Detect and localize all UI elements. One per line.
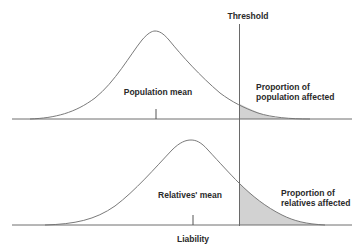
threshold-label: Threshold bbox=[227, 11, 268, 21]
relatives-affected-label-line2: relatives affected bbox=[281, 198, 350, 208]
relatives-affected-label-line1: Proportion of bbox=[281, 188, 335, 198]
population-curve bbox=[30, 31, 310, 119]
relatives-mean-label: Relatives' mean bbox=[158, 190, 222, 200]
relatives-panel: Relatives' mean Proportion of relatives … bbox=[12, 140, 352, 225]
population-affected-label-line2: population affected bbox=[256, 92, 334, 102]
population-affected-shade bbox=[239, 104, 288, 120]
population-panel: Population mean Proportion of population… bbox=[12, 31, 352, 119]
population-mean-label: Population mean bbox=[124, 87, 192, 97]
liability-threshold-diagram: Population mean Proportion of population… bbox=[0, 0, 363, 250]
relatives-curve bbox=[45, 140, 325, 225]
population-affected-label-line1: Proportion of bbox=[256, 82, 310, 92]
liability-axis-label: Liability bbox=[177, 234, 209, 244]
